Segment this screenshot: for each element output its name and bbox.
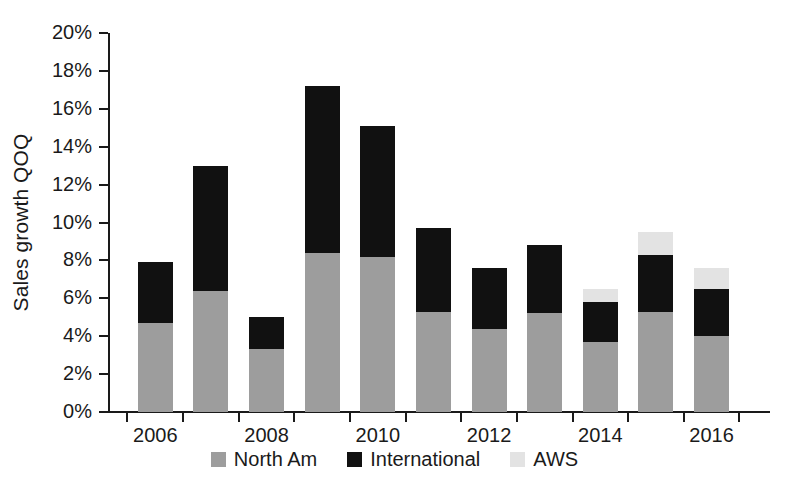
bar-group [527,245,562,412]
y-axis-tick [99,335,108,337]
bar-segment-aws [583,289,618,302]
x-axis-tick-label: 2014 [560,423,640,447]
plot-area [108,33,770,412]
x-axis-tick [572,413,574,422]
bar-group [416,228,451,412]
bar-segment-aws [638,232,673,255]
bar-segment-international [360,126,395,257]
y-axis-tick [99,108,108,110]
y-axis-tick [99,411,108,413]
y-axis-tick-label: 18% [36,60,92,80]
legend-item: North Am [211,449,317,469]
y-axis-tick [99,297,108,299]
y-axis-tick [99,70,108,72]
bar-segment-north-am [583,342,618,412]
x-axis-tick [293,413,295,422]
bar-segment-international [694,289,729,336]
bar-segment-north-am [527,313,562,412]
y-axis-tick [99,222,108,224]
y-axis-tick-label: 2% [36,363,92,383]
x-axis-tick [238,413,240,422]
bar-segment-north-am [360,257,395,412]
bar-group [138,262,173,412]
x-axis-tick [516,413,518,422]
legend-label: North Am [234,449,317,469]
y-axis-tick [99,146,108,148]
legend-item: International [347,449,480,469]
chart-legend: North AmInternationalAWS [0,449,789,469]
legend-label: International [370,449,480,469]
legend-label: AWS [533,449,578,469]
x-axis-tick [683,413,685,422]
x-axis-tick [182,413,184,422]
bar-segment-north-am [193,291,228,412]
legend-swatch-icon [510,452,525,467]
bar-group [249,317,284,412]
legend-item: AWS [510,449,578,469]
x-axis-tick-label: 2016 [672,423,752,447]
y-axis-tick [99,32,108,34]
bar-segment-international [305,86,340,253]
y-axis-tick-label: 12% [36,174,92,194]
sales-growth-stacked-bar-chart: Sales growth QOQ 0%2%4%6%8%10%12%14%16%1… [0,0,789,489]
bar-segment-north-am [249,349,284,412]
bar-segment-north-am [638,312,673,412]
x-axis-tick [126,413,128,422]
y-axis-tick [99,184,108,186]
legend-swatch-icon [347,452,362,467]
x-axis-tick-label: 2008 [227,423,307,447]
bar-group [193,166,228,412]
bar-segment-international [138,262,173,323]
bar-segment-north-am [472,329,507,412]
x-axis-tick-label: 2010 [338,423,418,447]
bar-group [583,289,618,412]
x-axis-tick [627,413,629,422]
x-axis-tick [349,413,351,422]
bar-segment-international [249,317,284,349]
bar-segment-north-am [416,312,451,412]
bar-group [305,86,340,412]
y-axis-tick-label: 4% [36,325,92,345]
bar-segment-international [416,228,451,311]
y-axis-tick-label: 16% [36,98,92,118]
bar-segment-international [193,166,228,291]
y-axis-tick-label: 14% [36,136,92,156]
bar-segment-aws [694,268,729,289]
bar-group [638,232,673,412]
legend-swatch-icon [211,452,226,467]
bar-segment-international [638,255,673,312]
x-axis-tick [738,413,740,422]
bar-segment-north-am [138,323,173,412]
bar-group [472,268,507,412]
x-axis-tick [460,413,462,422]
bar-group [694,268,729,412]
bar-group [360,126,395,412]
y-axis-tick [99,259,108,261]
x-axis-tick-label: 2012 [449,423,529,447]
bar-segment-north-am [694,336,729,412]
y-axis-tick-label: 20% [36,22,92,42]
x-axis-tick-label: 2006 [115,423,195,447]
bar-segment-international [583,302,618,342]
bar-segment-international [527,245,562,313]
x-axis-tick [405,413,407,422]
bar-segment-north-am [305,253,340,412]
y-axis-tick-label: 8% [36,249,92,269]
bar-segment-international [472,268,507,329]
y-axis-tick-label: 0% [36,401,92,421]
y-axis-tick [99,373,108,375]
y-axis-tick-label: 6% [36,287,92,307]
y-axis-tick-label: 10% [36,212,92,232]
